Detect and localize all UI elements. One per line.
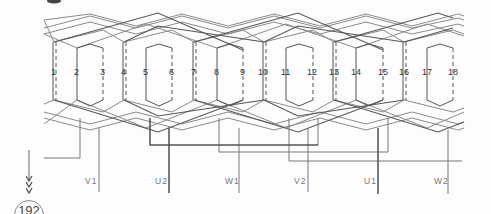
lead-connections: [44, 118, 462, 194]
slot-label: 6: [169, 67, 174, 77]
slot-label: 13: [329, 67, 339, 77]
bottom-end-windings: [44, 100, 464, 130]
slot-label: 1: [51, 67, 56, 77]
terminal-labels: V1 U2 W1 V2 U1 W2: [85, 176, 449, 186]
slot-label: 12: [307, 67, 317, 77]
terminal-label-u2: U2: [155, 176, 168, 186]
slot-label: 15: [378, 67, 388, 77]
slot-label: 5: [143, 67, 148, 77]
terminal-label-v2: V2: [294, 176, 306, 186]
slot-label: 16: [399, 67, 409, 77]
slot-labels: 1 2 3 4 5 6 7 8 9 10 11 12 13 14 15 16 1…: [51, 67, 458, 77]
slot-label: 18: [448, 67, 458, 77]
slot-label: 10: [258, 67, 268, 77]
terminal-label-v1: V1: [85, 176, 97, 186]
down-arrow-icon: [26, 150, 38, 196]
top-end-windings-dark: [54, 13, 453, 50]
winding-diagram: 1 2 3 4 5 6 7 8 9 10 11 12 13 14 15 16 1…: [0, 0, 491, 214]
terminal-label-w2: W2: [434, 176, 449, 186]
slot-label: 2: [74, 67, 79, 77]
slot-label: 3: [100, 67, 105, 77]
slot-conductors: [53, 42, 453, 106]
page-number: 192: [14, 200, 44, 214]
slot-label: 8: [214, 67, 219, 77]
slot-label: 4: [121, 67, 126, 77]
slot-label: 11: [281, 67, 290, 77]
header-mark: [47, 0, 61, 4]
slot-label: 9: [240, 67, 245, 77]
terminal-label-w1: W1: [225, 176, 240, 186]
slot-label: 7: [191, 67, 196, 77]
terminal-label-u1: U1: [364, 176, 377, 186]
slot-label: 14: [351, 67, 361, 77]
top-end-windings: [44, 14, 464, 48]
slot-label: 17: [422, 67, 432, 77]
